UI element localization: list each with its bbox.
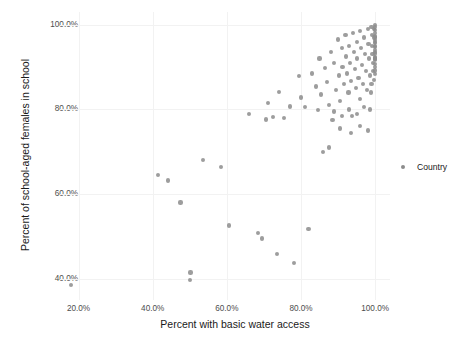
data-point [325,80,329,84]
data-point [247,112,251,116]
data-point [321,150,325,154]
data-point [348,61,352,65]
data-point [201,158,205,162]
data-point [219,165,223,169]
data-point [355,40,359,44]
legend-label-country: Country [417,162,447,172]
x-axis-title: Percent with basic water access [60,318,410,330]
data-point [358,97,362,101]
data-point [345,71,349,75]
data-point [351,31,355,35]
data-point [264,117,268,121]
data-point [166,178,170,182]
legend-marker-country-icon [396,160,410,174]
data-point [314,84,318,88]
data-point [346,90,350,94]
data-point [260,236,264,240]
data-point [350,114,354,118]
data-point [356,76,360,80]
data-points-layer [60,12,390,300]
data-point [336,37,340,41]
data-point [352,50,356,54]
data-point [334,88,338,92]
data-point [271,115,275,119]
data-point [359,46,363,50]
data-point [277,90,281,94]
data-point [227,223,231,227]
data-point [340,65,344,69]
data-point [178,200,182,204]
data-point [329,50,333,54]
data-point [343,33,347,37]
data-point [303,105,307,109]
data-point [310,71,314,75]
data-point [362,105,366,109]
data-point [349,131,353,135]
data-point [358,29,362,33]
data-point [297,74,301,78]
data-point [327,145,331,149]
data-point [353,67,357,71]
data-point [188,270,192,274]
data-point [340,46,344,50]
data-point [288,104,292,108]
data-point [361,82,365,86]
data-point [342,82,346,86]
data-point [358,124,362,128]
data-point [369,90,373,94]
data-point [360,63,364,67]
data-point [332,109,336,113]
data-point [362,35,366,39]
data-point [317,56,321,60]
data-point [188,278,192,282]
data-point [366,128,370,132]
legend: Country [396,160,447,174]
data-point [69,283,73,287]
data-point [373,56,377,60]
data-point [299,95,303,99]
plot-area [60,12,390,300]
x-tick-label: 100.0% [345,304,405,313]
data-point [355,56,359,60]
x-tick-label: 40.0% [123,304,183,313]
data-point [338,126,342,130]
data-point [332,61,336,65]
data-point [282,116,286,120]
data-point [349,79,353,83]
x-tick-label: 60.0% [197,304,257,313]
data-point [338,99,342,103]
data-point [369,82,373,86]
data-point [364,69,368,73]
data-point [316,108,320,112]
data-point [306,227,310,231]
data-point [368,73,372,77]
data-point [373,40,377,44]
data-point [323,66,327,70]
data-point [373,72,377,76]
data-point [347,107,351,111]
data-point [368,107,372,111]
data-point [275,252,279,256]
data-point [347,44,351,48]
data-point [256,231,260,235]
x-tick-label: 20.0% [49,304,109,313]
data-point [292,261,296,265]
data-point [354,86,358,90]
data-point [337,73,341,77]
data-point [363,52,367,56]
data-point [367,56,371,60]
data-point [156,173,160,177]
data-point [344,54,348,58]
data-point [340,114,344,118]
data-point [319,92,323,96]
data-point [327,103,331,107]
data-point [266,101,270,105]
x-tick-label: 80.0% [271,304,331,313]
scatter-chart: Percent of school-aged females in school… [0,0,468,345]
data-point [330,118,334,122]
data-point [355,112,359,116]
